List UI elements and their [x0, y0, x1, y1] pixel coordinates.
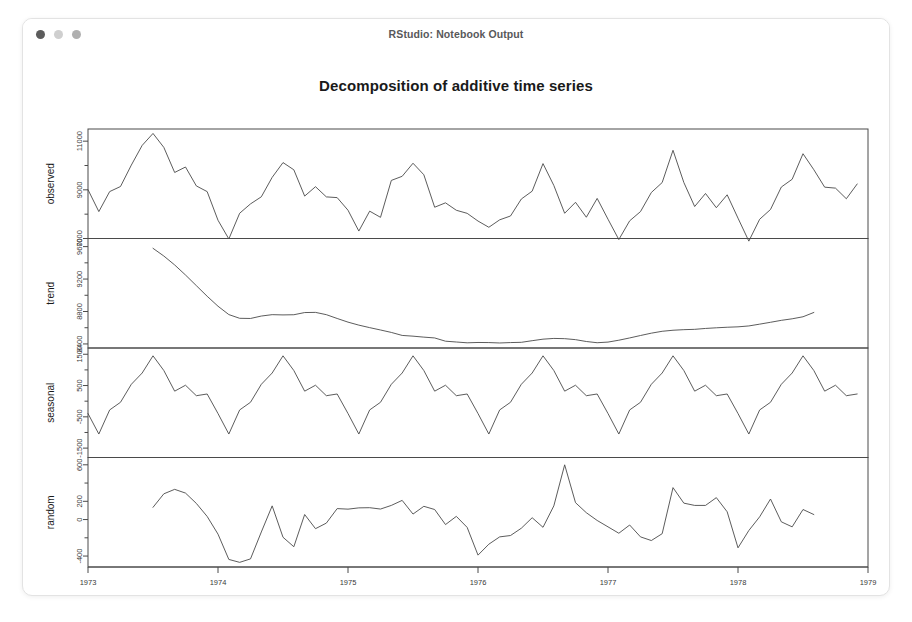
- panel-label-trend: trend: [45, 282, 56, 305]
- y-tick-label: 1500: [75, 346, 84, 363]
- y-tick-label: 11000: [75, 131, 84, 151]
- x-tick-label: 1975: [340, 578, 357, 587]
- panel-frame: [88, 348, 868, 458]
- panel-frame: [88, 239, 868, 349]
- y-tick-label: 8800: [75, 303, 84, 320]
- y-tick-label: -500: [75, 409, 84, 424]
- y-tick-label: 600: [75, 459, 84, 472]
- y-tick-label: 200: [75, 495, 84, 508]
- panel-trend: 8400880092009600trend: [45, 238, 868, 352]
- panel-label-observed: observed: [45, 163, 56, 204]
- panel-frame: [88, 129, 868, 239]
- rstudio-notebook-window: RStudio: Notebook Output Decomposition o…: [22, 18, 890, 596]
- series-line-observed: [88, 133, 857, 241]
- y-tick-label: 9200: [75, 271, 84, 288]
- window-titlebar: RStudio: Notebook Output: [23, 19, 889, 51]
- series-line-trend: [153, 248, 814, 343]
- series-line-random: [153, 465, 814, 563]
- y-tick-label: 0: [75, 517, 84, 521]
- plot-output-area: Decomposition of additive time series 70…: [23, 51, 889, 596]
- panel-label-seasonal: seasonal: [45, 383, 56, 423]
- x-tick-label: 1973: [80, 578, 97, 587]
- y-tick-label: -400: [75, 549, 84, 564]
- window-title: RStudio: Notebook Output: [23, 28, 889, 40]
- y-tick-label: 9000: [75, 181, 84, 198]
- y-tick-label: 9600: [75, 238, 84, 255]
- x-axis: 1973197419751976197719781979Time: [80, 567, 877, 596]
- panel-seasonal: -1500-5005001500seasonal: [45, 346, 868, 458]
- x-tick-label: 1974: [210, 578, 227, 587]
- panel-observed: 7000900011000observed: [45, 129, 868, 247]
- panel-label-random: random: [45, 495, 56, 529]
- y-tick-label: 500: [75, 379, 84, 392]
- panel-random: -4000200600random: [45, 458, 868, 568]
- x-tick-label: 1976: [470, 578, 487, 587]
- x-tick-label: 1977: [600, 578, 617, 587]
- y-tick-label: -1500: [75, 439, 84, 458]
- panel-frame: [88, 458, 868, 568]
- decomposition-chart: 7000900011000observed8400880092009600tre…: [23, 51, 890, 596]
- x-tick-label: 1978: [730, 578, 747, 587]
- series-line-seasonal: [88, 356, 857, 434]
- x-tick-label: 1979: [860, 578, 877, 587]
